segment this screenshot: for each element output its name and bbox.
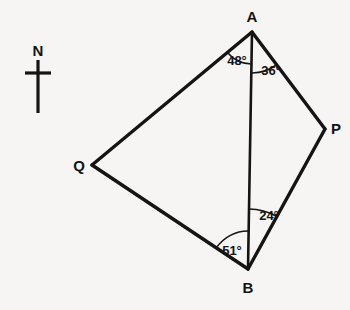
north-direction-label: N [33,43,44,58]
angle-label-QBA: 51° [222,244,242,257]
angle-label-ABP: 24° [259,209,279,222]
angle-label-BAP: 36° [261,64,281,77]
geometry-figure: A P B Q 48° 36° 24° 51° N [0,0,350,310]
figure-background [0,0,350,310]
vertex-label-Q: Q [73,158,85,173]
vertex-label-B: B [243,280,254,295]
figure-canvas [0,0,350,310]
vertex-label-P: P [331,121,341,136]
vertex-label-A: A [247,9,258,24]
angle-label-QAB: 48° [227,54,247,67]
